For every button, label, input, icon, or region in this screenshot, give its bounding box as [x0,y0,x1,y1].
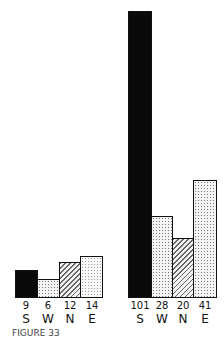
left-label-n: N [59,312,81,326]
left-value-e: 14 [81,300,103,311]
right-label-s: S [129,312,151,326]
left-value-s: 9 [15,300,37,311]
left-value-w: 6 [37,300,59,311]
right-value-w: 28 [151,300,173,311]
left-label-w: W [37,312,59,326]
right-label-e: E [194,312,216,326]
left-bar-w [37,279,60,298]
left-label-s: S [15,312,37,326]
right-bar-w [151,216,173,298]
right-value-s: 101 [129,300,151,311]
left-bar-s [15,270,38,298]
right-value-n: 20 [172,300,194,311]
right-bar-n [172,238,194,298]
right-label-w: W [151,312,173,326]
left-label-e: E [81,312,103,326]
right-value-e: 41 [194,300,216,311]
left-bar-e [80,256,103,298]
left-value-n: 12 [59,300,81,311]
left-bar-n [59,262,81,298]
right-bar-s [128,11,152,298]
right-bar-e [193,180,217,298]
figure-caption: FIGURE 33 [12,328,60,338]
right-label-n: N [172,312,194,326]
